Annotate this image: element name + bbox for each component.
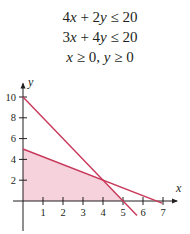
x-axis-arrow-icon — [172, 199, 178, 204]
y-tick-label: 4 — [11, 154, 17, 165]
y-tick-label: 8 — [11, 112, 16, 123]
y-tick-label: 10 — [6, 92, 17, 103]
x-axis-label: x — [175, 181, 182, 195]
x-tick-label: 2 — [60, 207, 65, 218]
y-tick-label: 2 — [11, 175, 16, 186]
x-tick-label: 5 — [120, 207, 125, 218]
x-tick-label: 3 — [80, 207, 85, 218]
feasible-region-plot: 1234567246810xy — [0, 0, 190, 234]
x-tick-label: 7 — [160, 207, 165, 218]
y-axis-arrow-icon — [21, 82, 26, 88]
x-tick-label: 1 — [40, 207, 45, 218]
feasible-region — [23, 149, 123, 201]
x-tick-label: 6 — [140, 207, 145, 218]
y-tick-label: 6 — [11, 133, 16, 144]
y-axis-label: y — [27, 75, 34, 89]
x-tick-label: 4 — [100, 207, 106, 218]
